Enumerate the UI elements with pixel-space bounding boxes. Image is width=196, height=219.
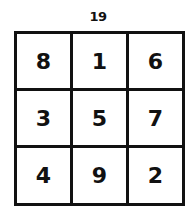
magic-square-grid: 8 1 6 3 5 7 4 9 2 [14,31,185,206]
grid-cell: 1 [73,34,129,91]
grid-cell: 8 [17,34,73,91]
magic-sum-label: 19 [0,9,196,24]
grid-cell: 7 [129,91,182,148]
grid-cell: 6 [129,34,182,91]
grid-cell: 4 [17,148,73,203]
grid-cell: 9 [73,148,129,203]
grid-cell: 5 [73,91,129,148]
grid-cell: 3 [17,91,73,148]
grid-cell: 2 [129,148,182,203]
